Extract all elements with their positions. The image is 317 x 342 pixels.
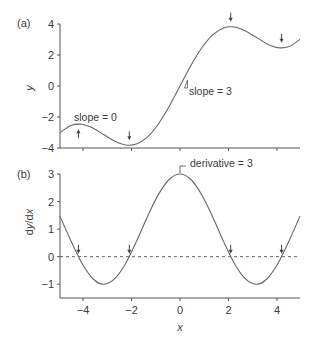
y-tick-label: 2 xyxy=(48,196,54,208)
x-tick-label: −4 xyxy=(77,304,90,316)
down-arrow-icon xyxy=(280,39,284,43)
x-tick-label: 2 xyxy=(225,304,231,316)
y-tick-label: 4 xyxy=(48,18,54,30)
panel-a: (a) 420−2−4 y slope = 0 slope = 3 xyxy=(17,13,300,154)
panel-b-y-ticks: 3210−1 xyxy=(41,168,60,290)
y-tick-label: −2 xyxy=(41,111,54,123)
panel-b-axes xyxy=(60,174,300,298)
panel-b-label: (b) xyxy=(17,168,30,180)
y-tick-label: 0 xyxy=(48,80,54,92)
x-var: x xyxy=(23,208,35,215)
y-tick-label: 1 xyxy=(48,223,54,235)
panel-b-x-ticks: −4−2024 xyxy=(77,298,280,316)
y-tick-label: 3 xyxy=(48,168,54,180)
panel-b-annotations xyxy=(76,166,283,254)
x-tick-label: 0 xyxy=(177,304,183,316)
panel-a-y-axis-label: y xyxy=(23,84,35,92)
panel-a-y-ticks: 420−2−4 xyxy=(41,18,60,154)
panel-b-y-axis-label: dy/dx xyxy=(23,208,35,235)
down-arrow-icon xyxy=(127,136,131,140)
panel-b-x-axis-label: x xyxy=(176,321,183,333)
bracket-icon xyxy=(180,166,186,173)
derivative-3-annotation: derivative = 3 xyxy=(190,157,253,169)
slash-d: /d xyxy=(23,214,35,223)
up-arrow-icon xyxy=(76,129,80,133)
figure: (a) 420−2−4 y slope = 0 slope = 3 (b) 32… xyxy=(0,0,317,342)
panel-a-label: (a) xyxy=(17,17,30,29)
x-tick-label: 4 xyxy=(274,304,280,316)
y-tick-label: −4 xyxy=(41,142,54,154)
axis-lines xyxy=(60,174,300,298)
y-tick-label: 2 xyxy=(48,49,54,61)
slope-3-annotation: slope = 3 xyxy=(189,85,232,97)
slope-0-annotation: slope = 0 xyxy=(74,111,117,123)
down-arrow-icon xyxy=(229,18,233,22)
y-curve xyxy=(60,27,300,146)
x-var: x xyxy=(176,321,183,333)
panel-b: (b) 3210−1 −4−2024 dy/dx x derivative = … xyxy=(17,157,300,333)
y-var: y xyxy=(23,84,35,92)
x-tick-label: −2 xyxy=(125,304,138,316)
slope-triangle-icon xyxy=(185,80,188,88)
y-tick-label: 0 xyxy=(48,251,54,263)
y-tick-label: −1 xyxy=(41,278,54,290)
derivative-curve xyxy=(60,174,300,284)
